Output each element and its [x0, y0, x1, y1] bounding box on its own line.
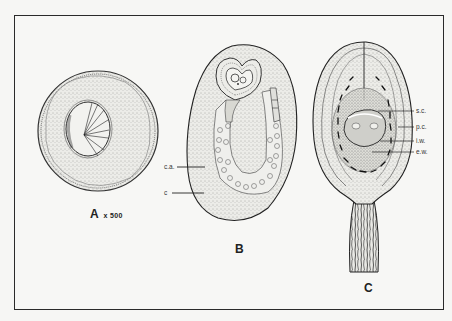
- panel-c-annotation-ew: e.w.: [416, 148, 428, 155]
- panel-c-label: C: [364, 281, 373, 295]
- panel-c-drawing: [313, 42, 414, 272]
- panel-b-annotation-c: c: [164, 189, 167, 196]
- panel-c-stalk: [350, 200, 379, 272]
- panel-a-magnification: x 500: [104, 212, 123, 219]
- panel-c-sporogenous-chamber: [344, 110, 386, 147]
- panel-a-drawing: [38, 71, 158, 191]
- panel-c-annotation-pc: p.c.: [416, 123, 426, 130]
- panel-b-drawing: [172, 45, 297, 221]
- figure-drawing: [0, 0, 452, 321]
- panel-b-label: B: [235, 242, 244, 256]
- panel-a-letter: A: [90, 207, 98, 221]
- panel-c-annotation-sc: s.c.: [416, 107, 426, 114]
- panel-b-annotation-ca: c.a.: [164, 163, 174, 170]
- panel-c-annotation-iw: i.w.: [416, 137, 425, 144]
- panel-a-nucleus: [66, 102, 110, 156]
- panel-a-label: A x 500: [90, 207, 123, 221]
